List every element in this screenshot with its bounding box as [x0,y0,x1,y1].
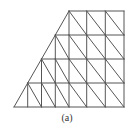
mesh-diagonal-edge [69,59,87,83]
mesh-diagonal-edge [105,59,124,83]
mesh-slant-edge [55,11,69,35]
mesh-diagonal-edge [69,83,87,107]
mesh-diagonal-edge [42,59,56,83]
mesh-diagonal-edge [105,11,124,35]
mesh-diagonal-edge [69,11,87,35]
figure-caption: (a) [0,112,134,123]
mesh-diagonal-edge [105,83,124,107]
mesh-slant-edge [14,83,28,107]
mesh-diagonal-edge [87,59,106,83]
mesh-diagonal-edge [87,83,106,107]
mesh-diagonal-edge [87,35,106,59]
mesh-diagonal-edge [87,11,106,35]
mesh-slant-edge [28,59,42,83]
mesh-diagonal-edge [55,83,69,107]
mesh-slant-edge [42,35,56,59]
mesh-diagonal-edge [55,35,69,59]
mesh-diagonal-edge [28,83,42,107]
mesh-diagonal-edge [69,35,87,59]
mesh-diagonal-edge [42,83,56,107]
mesh-diagonal-edge [55,59,69,83]
mesh-diagonal-edge [105,35,124,59]
